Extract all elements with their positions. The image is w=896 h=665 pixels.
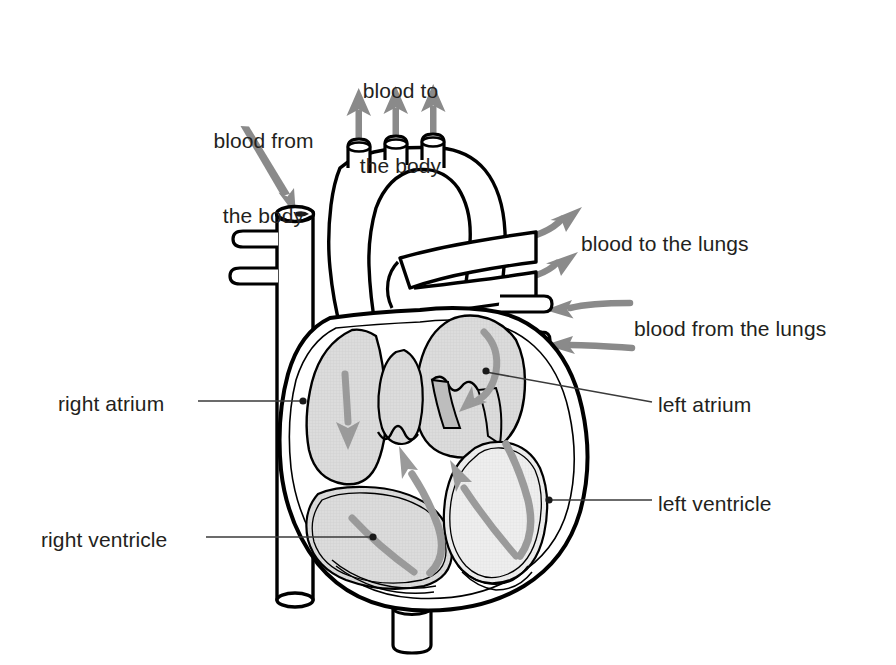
label-blood-from-lungs: blood from the lungs (634, 316, 896, 341)
label-blood-from-body: blood from the body (196, 78, 331, 253)
label-right-ventricle: right ventricle (41, 527, 216, 552)
label-blood-to-body-line2: the body (343, 153, 458, 178)
label-blood-to-body: blood to the body (343, 28, 458, 203)
label-right-atrium: right atrium (58, 391, 208, 416)
dot-right-ventricle (369, 533, 376, 540)
label-left-ventricle: left ventricle (658, 491, 828, 516)
label-blood-from-body-line2: the body (196, 203, 331, 228)
dot-left-ventricle (545, 496, 552, 503)
label-left-atrium: left atrium (658, 392, 808, 417)
label-blood-from-body-line1: blood from (196, 128, 331, 153)
heart-diagram-canvas: blood from the body blood to the body bl… (0, 0, 896, 665)
dot-right-atrium (299, 397, 306, 404)
dot-left-atrium (482, 367, 489, 374)
label-blood-to-lungs: blood to the lungs (581, 231, 841, 256)
label-blood-to-body-line1: blood to (343, 78, 458, 103)
